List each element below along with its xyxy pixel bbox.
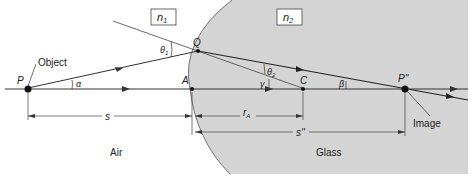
label-theta1: θ1 bbox=[160, 45, 168, 56]
point-C bbox=[301, 87, 305, 91]
label-A: A bbox=[181, 75, 189, 86]
label-C: C bbox=[300, 75, 308, 86]
dim-s-arrow-left bbox=[28, 114, 35, 118]
point-P bbox=[25, 86, 32, 93]
dim-s-arrow-right bbox=[185, 114, 192, 118]
theta1-arc bbox=[171, 41, 172, 57]
label-air: Air bbox=[110, 147, 123, 158]
label-beta: β bbox=[338, 79, 344, 89]
refraction-diagram: n1 n2 P Q A C P'' α θ1 θ2 γ β Object Ima… bbox=[0, 0, 472, 182]
object-leader bbox=[28, 64, 36, 86]
label-Q: Q bbox=[193, 37, 201, 48]
alpha-arc bbox=[72, 80, 73, 89]
label-gamma: γ bbox=[260, 79, 265, 89]
axis-arrow bbox=[122, 86, 130, 92]
label-P: P bbox=[17, 75, 24, 86]
label-s: s bbox=[105, 111, 110, 122]
label-s-image: s'' bbox=[296, 127, 306, 138]
point-A bbox=[190, 87, 194, 91]
point-Q bbox=[196, 49, 200, 53]
label-alpha: α bbox=[76, 79, 82, 89]
label-glass: Glass bbox=[316, 147, 342, 158]
label-image: Image bbox=[413, 118, 441, 129]
dim-s-image-arrow-left bbox=[195, 130, 202, 134]
label-P-image: P'' bbox=[398, 73, 410, 84]
label-object: Object bbox=[38, 57, 67, 68]
